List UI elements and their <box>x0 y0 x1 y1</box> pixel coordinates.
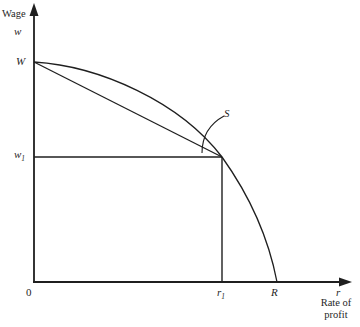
x-axis-title-line1: Rate of <box>316 297 356 309</box>
point-label-R: R <box>271 287 278 298</box>
s-pointer-arrow-icon <box>202 116 224 153</box>
w1-subscript: 1 <box>21 154 25 163</box>
y-axis-arrowhead-icon <box>30 3 39 16</box>
diagram-canvas <box>0 0 360 327</box>
y-axis-symbol: w <box>14 26 21 37</box>
x-axis-title: Rate of profit <box>316 297 356 320</box>
frontier-curve <box>34 62 277 282</box>
r1-subscript: 1 <box>221 292 225 301</box>
point-label-r1: r1 <box>217 287 225 300</box>
x-axis-arrowhead-icon <box>339 278 352 287</box>
point-label-S: S <box>224 108 230 119</box>
point-label-w1: w1 <box>14 149 25 162</box>
wage-profit-frontier-figure: Wage w r Rate of profit W w1 0 r1 R S <box>0 0 360 327</box>
origin-label: 0 <box>26 287 32 298</box>
x-axis-title-line2: profit <box>316 309 356 321</box>
y-axis-title: Wage <box>2 9 26 20</box>
chord-line <box>34 62 222 157</box>
point-label-W: W <box>16 56 25 67</box>
